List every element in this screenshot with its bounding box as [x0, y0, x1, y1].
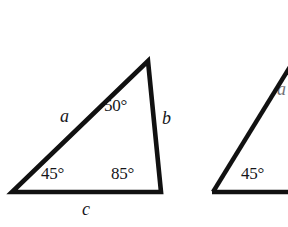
triangles-drawing — [0, 0, 288, 227]
triangle-left-outline — [12, 61, 161, 192]
triangle-right-bottom-left-angle-label: 45° — [241, 165, 264, 182]
triangle-left-side-b-label: b — [162, 109, 171, 127]
triangle-left-side-a-label: a — [60, 107, 69, 125]
triangle-right-side-a-label: a — [277, 80, 286, 98]
geometry-figure: 50° a b 45° 85° c 45° a — [0, 0, 288, 227]
triangle-left-side-c-label: c — [82, 200, 90, 218]
triangle-left-bottom-left-angle-label: 45° — [41, 165, 64, 182]
triangle-left-bottom-right-angle-label: 85° — [111, 165, 134, 182]
triangle-left-apex-angle-label: 50° — [104, 97, 127, 114]
triangle-left-shape — [12, 61, 161, 192]
